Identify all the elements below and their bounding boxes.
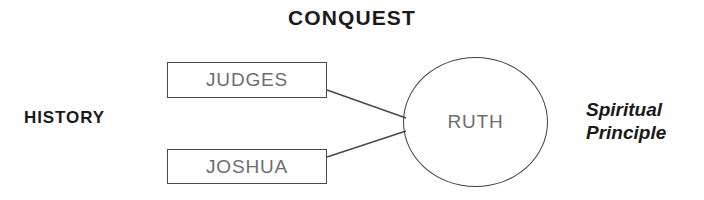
- node-circle-ruth-label: RUTH: [448, 111, 504, 133]
- connector-judges-to-ruth: [327, 90, 406, 118]
- diagram-canvas: CONQUEST HISTORY JUDGES JOSHUA RUTH Spir…: [0, 0, 704, 200]
- node-box-judges[interactable]: JUDGES: [167, 62, 327, 98]
- spiritual-principle-line-2: Principle: [586, 122, 666, 143]
- node-box-joshua[interactable]: JOSHUA: [167, 149, 327, 184]
- diagram-title-conquest: CONQUEST: [0, 6, 704, 30]
- category-label-history: HISTORY: [24, 108, 105, 128]
- category-label-spiritual-principle: Spiritual Principle: [586, 98, 704, 144]
- node-box-joshua-label: JOSHUA: [206, 156, 288, 178]
- spiritual-principle-line-1: Spiritual: [586, 99, 662, 120]
- node-circle-ruth[interactable]: RUTH: [403, 57, 548, 187]
- node-box-judges-label: JUDGES: [206, 69, 288, 91]
- connector-joshua-to-ruth: [327, 131, 406, 157]
